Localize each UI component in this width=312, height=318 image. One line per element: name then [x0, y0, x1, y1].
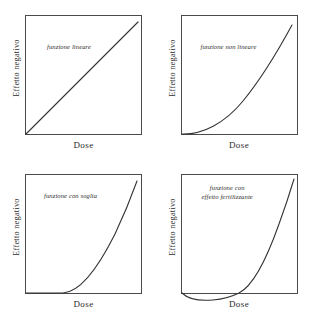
- curve-nonlinear: [181, 15, 298, 135]
- panel-annotation: funzione con soglia: [44, 192, 97, 201]
- y-axis-label: Effetto negativo: [168, 167, 182, 287]
- panel-annotation: funzione lineare: [47, 43, 91, 52]
- panel-annotation: funzione non lineare: [201, 43, 257, 52]
- x-axis-label: Dose: [25, 299, 142, 309]
- panel-annotation-line1: funzione con: [210, 184, 245, 191]
- curve-linear: [25, 15, 142, 135]
- figure-grid: Effetto negativo funzione lineare Dose E…: [0, 0, 311, 318]
- panel-annotation: funzione con effetto fertilizzante: [202, 184, 253, 201]
- x-axis-label: Dose: [181, 140, 298, 150]
- panel-linear: Effetto negativo funzione lineare Dose: [0, 0, 156, 159]
- panel-threshold: Effetto negativo funzione con soglia Dos…: [0, 159, 156, 318]
- x-axis-label: Dose: [25, 140, 142, 150]
- panel-nonlinear: Effetto negativo funzione non lineare Do…: [156, 0, 312, 159]
- y-axis-label: Effetto negativo: [168, 8, 182, 128]
- x-axis-label: Dose: [181, 299, 298, 309]
- panel-hormesis: Effetto negativo funzione con effetto fe…: [156, 159, 312, 318]
- y-axis-label: Effetto negativo: [12, 8, 26, 128]
- y-axis-label: Effetto negativo: [12, 167, 26, 287]
- panel-annotation-line2: effetto fertilizzante: [202, 193, 253, 200]
